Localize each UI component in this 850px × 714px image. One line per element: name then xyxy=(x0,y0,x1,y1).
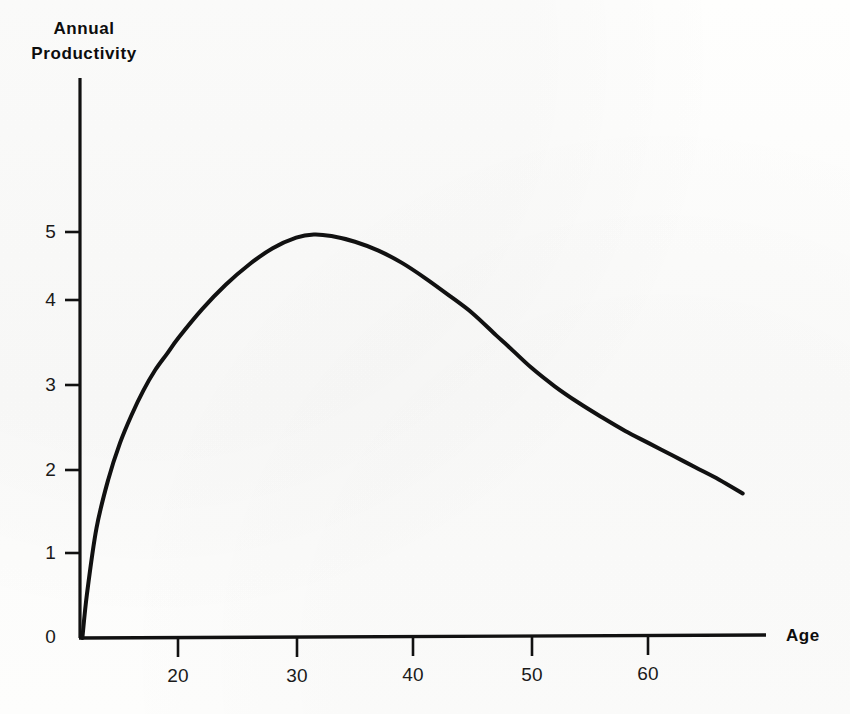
y-tick-label-0: 0 xyxy=(26,626,56,648)
plot-area xyxy=(0,0,850,714)
productivity-curve xyxy=(82,234,742,638)
y-tick-label-2: 2 xyxy=(26,459,56,481)
x-axis-label: Age xyxy=(786,626,820,646)
y-tick-label-1: 1 xyxy=(26,542,56,564)
x-tick-label-60: 60 xyxy=(637,663,659,685)
chart-figure: Annual Productivity 5 4 3 2 1 0 20 3 xyxy=(0,0,850,714)
y-tick-marks xyxy=(65,232,80,553)
x-tick-label-30: 30 xyxy=(286,665,308,687)
x-tick-label-20: 20 xyxy=(167,665,189,687)
x-axis-line xyxy=(79,635,766,638)
y-tick-label-5: 5 xyxy=(26,221,56,243)
y-tick-label-3: 3 xyxy=(26,374,56,396)
y-tick-label-4: 4 xyxy=(26,289,56,311)
x-tick-label-40: 40 xyxy=(402,664,424,686)
x-tick-label-50: 50 xyxy=(521,664,543,686)
